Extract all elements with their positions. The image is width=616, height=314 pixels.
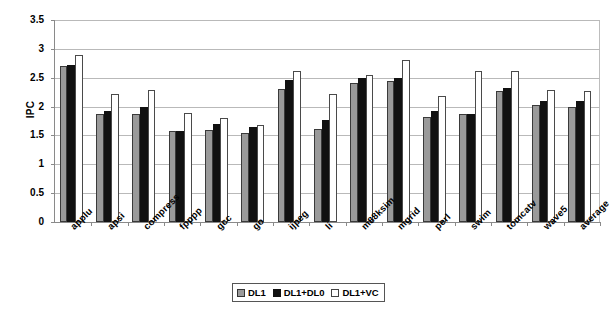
y-axis-tick bbox=[51, 222, 55, 223]
bar-go-DL1+DL0 bbox=[249, 127, 257, 222]
legend-swatch-icon bbox=[331, 289, 339, 297]
bar-go-DL1 bbox=[241, 133, 249, 222]
bar-swim-DL1 bbox=[459, 114, 467, 222]
bar-average-DL1 bbox=[568, 107, 576, 222]
bar-li-DL1 bbox=[314, 129, 322, 222]
bar-swim-DL1+DL0 bbox=[467, 114, 475, 223]
bar-tomcatv-DL1+VC bbox=[511, 71, 519, 222]
bar-wave5-DL1+VC bbox=[547, 90, 555, 222]
bar-gcc-DL1+VC bbox=[220, 118, 228, 222]
bar-fpppp-DL1+VC bbox=[184, 113, 192, 222]
legend-swatch-icon bbox=[237, 289, 245, 297]
bar-applu-DL1 bbox=[60, 66, 68, 222]
ipc-bar-chart: IPC 00.511.522.533.5 appluapsicompressfp… bbox=[0, 0, 616, 314]
y-axis-tick-label: 2 bbox=[10, 102, 44, 112]
bar-fpppp-DL1+DL0 bbox=[176, 131, 184, 222]
bar-go-DL1+VC bbox=[257, 125, 265, 222]
bar-group bbox=[164, 20, 200, 222]
legend-label: DL1+VC bbox=[342, 287, 378, 298]
y-axis-tick-label: 1 bbox=[10, 159, 44, 169]
legend-item-DL1+DL0: DL1+DL0 bbox=[273, 287, 325, 298]
legend-item-DL1+VC: DL1+VC bbox=[331, 287, 378, 298]
bar-group bbox=[346, 20, 382, 222]
bar-applu-DL1+VC bbox=[75, 55, 83, 222]
bar-group bbox=[455, 20, 491, 222]
bar-perl-DL1 bbox=[423, 117, 431, 222]
bar-apsi-DL1+VC bbox=[111, 94, 119, 222]
bar-mgrid-DL1+VC bbox=[402, 60, 410, 222]
bar-tomcatv-DL1+DL0 bbox=[503, 88, 511, 222]
bar-m88ksim-DL1+DL0 bbox=[358, 78, 366, 222]
bar-group bbox=[382, 20, 418, 222]
bar-perl-DL1+VC bbox=[438, 96, 446, 222]
bar-average-DL1+VC bbox=[584, 91, 592, 222]
bar-group bbox=[564, 20, 600, 222]
bar-compress-DL1 bbox=[132, 114, 140, 222]
bar-li-DL1+DL0 bbox=[322, 120, 330, 222]
bar-group bbox=[491, 20, 527, 222]
bar-perl-DL1+DL0 bbox=[431, 111, 439, 222]
bar-ijpeg-DL1+VC bbox=[293, 71, 301, 222]
bar-wave5-DL1+DL0 bbox=[540, 101, 548, 222]
bar-average-DL1+DL0 bbox=[576, 101, 584, 222]
bar-apsi-DL1+DL0 bbox=[104, 111, 112, 222]
bar-gcc-DL1+DL0 bbox=[213, 124, 221, 222]
plot-area bbox=[54, 20, 600, 223]
bar-group bbox=[273, 20, 309, 222]
x-axis-labels: appluapsicompressfppppgccgoijpeglim88ksi… bbox=[54, 224, 599, 284]
bar-group bbox=[200, 20, 236, 222]
bar-tomcatv-DL1 bbox=[496, 91, 504, 222]
bar-compress-DL1+DL0 bbox=[140, 107, 148, 222]
bar-group bbox=[55, 20, 91, 222]
y-axis-tick-label: 0.5 bbox=[10, 188, 44, 198]
chart-legend: DL1DL1+DL0DL1+VC bbox=[232, 283, 385, 302]
bar-m88ksim-DL1+VC bbox=[366, 75, 374, 222]
legend-label: DL1 bbox=[248, 287, 266, 298]
bar-compress-DL1+VC bbox=[148, 90, 156, 222]
bar-li-DL1+VC bbox=[329, 94, 337, 222]
bar-group bbox=[237, 20, 273, 222]
y-axis-labels: IPC 00.511.522.533.5 bbox=[8, 0, 44, 314]
legend-item-DL1: DL1 bbox=[237, 287, 266, 298]
bar-applu-DL1+DL0 bbox=[67, 65, 75, 222]
bar-swim-DL1+VC bbox=[475, 71, 483, 222]
legend-label: DL1+DL0 bbox=[284, 287, 325, 298]
bar-gcc-DL1 bbox=[205, 130, 213, 222]
y-axis-tick-label: 3.5 bbox=[10, 15, 44, 25]
y-axis-tick-label: 0 bbox=[10, 217, 44, 227]
bar-group bbox=[91, 20, 127, 222]
y-axis-tick-label: 3 bbox=[10, 44, 44, 54]
bar-group bbox=[418, 20, 454, 222]
bar-group bbox=[309, 20, 345, 222]
legend-swatch-icon bbox=[273, 289, 281, 297]
bar-group bbox=[527, 20, 563, 222]
x-axis-tick bbox=[600, 222, 601, 226]
bar-group bbox=[128, 20, 164, 222]
bar-apsi-DL1 bbox=[96, 114, 104, 223]
bar-m88ksim-DL1 bbox=[350, 83, 358, 222]
y-axis-tick-label: 2.5 bbox=[10, 73, 44, 83]
y-axis-tick-label: 1.5 bbox=[10, 130, 44, 140]
bar-ijpeg-DL1 bbox=[278, 89, 286, 222]
bar-ijpeg-DL1+DL0 bbox=[285, 80, 293, 222]
